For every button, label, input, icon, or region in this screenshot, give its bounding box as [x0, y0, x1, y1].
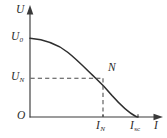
point-n-label-text: N: [108, 61, 116, 73]
x-axis-label-text: I: [154, 119, 158, 131]
origin-label-text: O: [17, 109, 25, 121]
y-tick-label-open-circuit-voltage: U0: [11, 31, 23, 43]
x-axis-label: I: [154, 120, 158, 132]
point-n-label: N: [108, 62, 116, 74]
origin-label: O: [17, 110, 25, 122]
u-nominal-base-text: U: [11, 70, 19, 82]
y-axis-label: U: [16, 4, 24, 16]
y-tick-label-nominal-voltage: UN: [11, 71, 24, 83]
u-open-subscript-text: 0: [20, 36, 24, 44]
u-open-base-text: U: [11, 30, 19, 42]
y-axis-label-text: U: [16, 3, 24, 15]
u-i-curve: [30, 38, 138, 117]
u-nominal-subscript-text: N: [20, 76, 25, 84]
i-short-subscript-text: sc: [134, 125, 140, 133]
x-tick-label-short-circuit-current: Isc: [130, 120, 140, 132]
i-nominal-subscript-text: N: [100, 125, 105, 133]
x-tick-label-nominal-current: IN: [96, 120, 105, 132]
u-i-characteristic-figure: U U0 UN O N IN Isc I: [0, 0, 167, 138]
y-axis-arrow-icon: [27, 5, 34, 15]
